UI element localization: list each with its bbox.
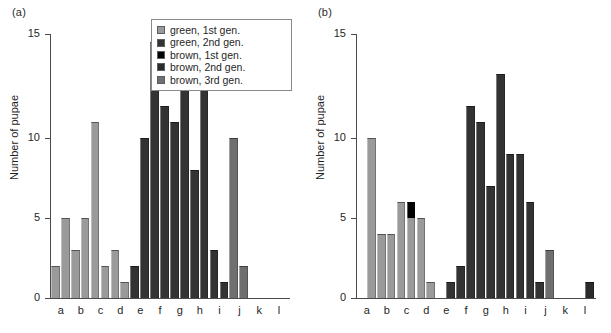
panel-b-ytick-label-0: 0: [316, 291, 346, 303]
bar-b-c-2: [407, 34, 416, 298]
figure-pupae-counts: (a) Number of pupae 0 5 10 15 abcdefghij…: [0, 0, 611, 333]
bar-b-b-1: [377, 34, 386, 298]
legend-swatch-green-1st: [157, 26, 165, 34]
x-label-a-a: a: [51, 304, 71, 316]
bar-b-d-1: [417, 34, 426, 298]
bar-segment-b-d-1-s0: [417, 218, 426, 298]
bar-b-e-1: [436, 34, 445, 298]
bar-segment-a-a-2-s0: [61, 218, 70, 298]
bar-a-b-2: [81, 34, 90, 298]
bar-group-b-g: [476, 34, 496, 298]
bar-a-a-1: [51, 34, 60, 298]
bar-b-a-2: [367, 34, 376, 298]
bar-a-d-1: [111, 34, 120, 298]
bar-b-g-1: [476, 34, 485, 298]
legend-item-brown-3rd: brown, 3rd gen.: [157, 74, 285, 86]
x-label-a-l: l: [269, 304, 289, 316]
bar-a-d-2: [120, 34, 129, 298]
bar-b-l-2: [585, 34, 594, 298]
bar-segment-b-j-1-s1: [535, 282, 544, 298]
bar-segment-a-i-2-s1: [220, 282, 229, 298]
legend: green, 1st gen. green, 2nd gen. brown, 1…: [151, 19, 292, 91]
panel-b-ytick-15: [351, 34, 356, 35]
bar-a-b-1: [71, 34, 80, 298]
bar-segment-a-j-1-s4: [229, 138, 238, 298]
bar-segment-a-i-1-s1: [210, 250, 219, 298]
bar-segment-a-h-2-s1: [200, 58, 209, 298]
bar-segment-b-g-2-s1: [486, 186, 495, 298]
bar-b-h-1: [496, 34, 505, 298]
x-label-a-c: c: [91, 304, 111, 316]
bar-group-a-a: [51, 34, 71, 298]
bar-segment-b-b-1-s0: [377, 234, 386, 298]
bar-segment-b-j-2-s4: [545, 250, 554, 298]
panel-b-plot-area: 0 5 10 15 abcdefghijkl: [306, 0, 611, 333]
legend-item-green-1st: green, 1st gen.: [157, 24, 285, 36]
bar-b-f-2: [466, 34, 475, 298]
bar-segment-b-h-2-s1: [506, 154, 515, 298]
x-label-a-e: e: [130, 304, 150, 316]
x-label-a-f: f: [150, 304, 170, 316]
bar-group-b-f: [456, 34, 476, 298]
legend-label-brown-1st: brown, 1st gen.: [170, 50, 242, 61]
bar-group-a-e: [130, 34, 150, 298]
bar-group-b-l: [575, 34, 595, 298]
x-label-b-a: a: [357, 304, 377, 316]
bar-group-a-d: [110, 34, 130, 298]
bar-segment-a-d-1-s0: [111, 250, 120, 298]
bar-segment-b-d-2-s0: [426, 282, 435, 298]
bar-group-b-c: [397, 34, 417, 298]
bar-b-i-2: [526, 34, 535, 298]
bar-a-c-2: [101, 34, 110, 298]
panel-a-x-axis-labels: abcdefghijkl: [51, 304, 289, 316]
x-label-b-h: h: [496, 304, 516, 316]
bar-segment-b-i-2-s1: [526, 202, 535, 298]
bar-segment-a-b-1-s0: [71, 250, 80, 298]
x-label-a-g: g: [170, 304, 190, 316]
legend-swatch-brown-2nd: [157, 63, 165, 71]
bar-b-g-2: [486, 34, 495, 298]
bar-group-b-j: [535, 34, 555, 298]
panel-a-ytick-15: [45, 34, 50, 35]
panel-b-ytick-label-10: 10: [316, 131, 346, 143]
bar-segment-b-l-2-s3: [585, 282, 594, 298]
bar-segment-a-c-2-s0: [101, 266, 110, 298]
x-label-b-e: e: [436, 304, 456, 316]
bar-group-b-h: [496, 34, 516, 298]
bar-b-c-1: [397, 34, 406, 298]
bar-segment-b-b-2-s0: [387, 234, 396, 298]
bar-segment-b-c-1-s0: [397, 202, 406, 298]
panel-b-ytick-0: [351, 298, 356, 299]
panel-a-ytick-label-15: 15: [10, 27, 40, 39]
bar-segment-a-e-2-s1: [140, 138, 149, 298]
legend-item-brown-1st: brown, 1st gen.: [157, 49, 285, 61]
legend-label-green-2nd: green, 2nd gen.: [170, 37, 244, 48]
bar-b-j-1: [535, 34, 544, 298]
x-label-a-j: j: [229, 304, 249, 316]
bar-segment-b-c-2-s2: [407, 202, 416, 218]
bar-segment-a-d-2-s0: [120, 282, 129, 298]
bar-group-b-e: [436, 34, 456, 298]
bar-a-c-1: [91, 34, 100, 298]
x-label-b-j: j: [535, 304, 555, 316]
bar-segment-a-c-1-s0: [91, 122, 100, 298]
bar-group-a-c: [91, 34, 111, 298]
bar-segment-b-e-2-s1: [446, 282, 455, 298]
bar-b-b-2: [387, 34, 396, 298]
legend-label-brown-2nd: brown, 2nd gen.: [170, 62, 245, 73]
bar-segment-a-e-1-s1: [130, 266, 139, 298]
bar-segment-b-f-1-s1: [456, 266, 465, 298]
bar-segment-a-g-1-s1: [170, 122, 179, 298]
bar-b-i-1: [516, 34, 525, 298]
panel-a-ytick-label-0: 0: [10, 291, 40, 303]
x-label-b-f: f: [456, 304, 476, 316]
bar-b-j-2: [545, 34, 554, 298]
panel-a-x-axis: [50, 298, 290, 299]
x-label-b-c: c: [397, 304, 417, 316]
x-label-b-k: k: [555, 304, 575, 316]
panel-b-x-axis-labels: abcdefghijkl: [357, 304, 595, 316]
legend-swatch-brown-1st: [157, 51, 165, 59]
x-label-a-b: b: [71, 304, 91, 316]
x-label-b-l: l: [575, 304, 595, 316]
x-label-b-d: d: [416, 304, 436, 316]
